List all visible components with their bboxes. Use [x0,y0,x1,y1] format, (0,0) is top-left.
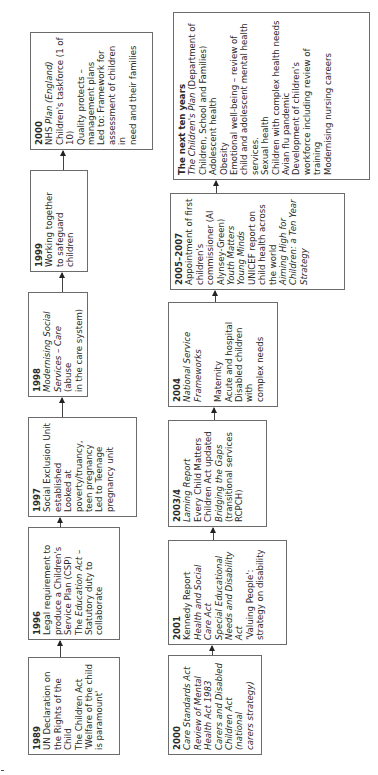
timeline-entry-line: Appointment of first [184,198,194,285]
timeline-year-heading: The next ten years [177,17,187,175]
timeline-entry-line: Acute and hospital [224,307,234,402]
arrow-connector [216,181,217,193]
arrow-connector [212,646,213,655]
timeline-entry-line: Youth Matters [226,198,236,285]
timeline-entry-line: produce a Children's [53,532,63,635]
timeline-entry-line: the world [268,198,278,285]
timeline-entry-line: Kennedy Report [182,545,192,640]
timeline-entry-line: is paramount' [94,662,104,750]
timeline-entry-line: Health and Social [193,545,203,640]
timeline-entry-line: workforce including review of [302,17,312,175]
timeline-entry-line: Avian flu pandemic [281,17,291,175]
timeline-entry-line: need and their families [128,37,138,145]
timeline-entry-line: The Children Act [74,662,84,750]
timeline-entry-line: Bridging the Gaps [214,425,224,522]
timeline-entry-line: pregnancy unit [105,422,115,512]
timeline-entry-line: Laming Report [182,425,192,522]
timeline-entry-line: Strategy [299,198,309,285]
arrow-connector [214,408,215,420]
timeline-entry-line: child and adolescent mental health [239,17,249,175]
timeline-entry-line: Care Standards Act [182,660,192,750]
timeline-entry-line: Sexual health [260,17,270,175]
timeline-entry-line: child health across [257,198,267,285]
timeline-entry-line: 10) [65,37,75,145]
timeline-entry-line: Service Plan (CSP) [63,532,73,635]
timeline-entry-line: children [65,175,75,267]
arrow-connector [215,291,216,302]
timeline-year-heading: 2000 [172,660,182,750]
timeline-entry-line: Modernising Social [42,297,52,392]
arrow-connector [63,151,64,170]
timeline-entry-line: in the care system) [74,297,84,392]
timeline-entry-line: Carers and Disabled [214,660,224,750]
timeline-entry-line: Social Exclusion Unit [42,422,52,512]
timeline-year-heading: 1996 [32,532,42,635]
timeline-entry-line: Children Act updated [203,425,213,522]
timeline-entry-line: Care Act [203,545,213,640]
timeline-entry-line: Children Act (national [224,660,245,750]
timeline-entry-line: Children's taskforce (1 of [55,37,65,145]
timeline-entry-line: Development of children's [291,17,301,175]
corner-mark [1,770,4,771]
timeline-year-heading: 2005–2007 [174,198,184,285]
timeline-entry-line: children's [195,198,205,285]
timeline-entry-line: carers strategy) [245,660,255,750]
timeline-entry-line: Led to: Framework for [96,37,106,145]
timeline-year-heading: 1999 [34,175,44,267]
timeline-entry-line: training [312,17,322,175]
timeline-year-heading: 1998 [32,297,42,392]
timeline-entry-line: Review of Mental [193,660,203,750]
timeline-year-heading: 2003/4 [172,425,182,522]
timeline-entry-line: Young Minds [236,198,246,285]
timeline-entry-line: Every Child Matters [193,425,203,522]
timeline-entry-line: poverty/truancy, [74,422,84,512]
timeline-entry-line: established [53,422,63,512]
timeline-entry-line: Maternity [213,307,223,402]
timeline-box-2005-2007: 2005–2007Appointment of firstchildren'sc… [170,193,345,290]
timeline-year-heading: 2004 [172,307,182,402]
timeline-entry-line: National Service [182,307,192,402]
timeline-entry-line: management plans [86,37,96,145]
timeline-entry-line: strategy on disability [255,545,265,640]
timeline-entry-line: NHS Plan (England) [44,37,54,145]
timeline-box-2000-care-standards: 2000Care Standards ActReview of MentalHe… [168,655,262,755]
timeline-entry-line: UNICEF report on [247,198,257,285]
timeline-entry-line: 'Welfare of the child [84,662,94,750]
timeline-entry-line: assessment of children in [107,37,128,145]
timeline-entry-line: commissioner (Al [205,198,215,285]
timeline-entry-line: Needs and Disability [224,545,234,640]
timeline-box-2004: 2004National ServiceFrameworksMaternityA… [168,302,278,407]
timeline-entry-line: Child [63,662,73,750]
timeline-entry-line: Working together [44,175,54,267]
timeline-box-next-ten-years: The next ten yearsThe Children's Plan (D… [173,12,370,180]
timeline-entry-line [203,307,213,402]
timeline-entry-line: Special Educational [214,545,224,640]
arrow-connector [60,641,61,657]
timeline-entry-line: Adolescent health [208,17,218,175]
timeline-entry-line: Frameworks [193,307,203,402]
timeline-box-2003-4: 2003/4Laming ReportEvery Child MattersCh… [168,420,267,527]
timeline-box-1997: 1997Social Exclusion UnitestablishedLook… [28,417,137,517]
arrow-connector [62,273,63,292]
timeline-entry-line: to safeguard [55,175,65,267]
timeline-year-heading: 2000 [34,37,44,145]
timeline-entry-line: Looked at [63,422,73,512]
timeline-entry-line: UN Declaration on [42,662,52,750]
timeline-year-heading: 1989 [32,662,42,750]
timeline-entry-line: Children with complex health needs [271,17,281,175]
timeline-entry-line: teen pregnancy [84,422,94,512]
timeline-entry-line: complex needs [255,307,265,402]
timeline-diagram: 1989UN Declaration onthe Rights of theCh… [0,0,378,775]
timeline-box-2000-nhs: 2000NHS Plan (England)Children's taskfor… [30,32,153,150]
arrow-connector [60,518,61,527]
timeline-entry-line: collaborate [94,532,104,635]
timeline-entry-line: Services – Care (abuse [53,297,74,392]
timeline-entry-line: Emotional well-being – review of [229,17,239,175]
timeline-entry-line: Act [234,545,244,640]
timeline-entry-line: Health Act 1983 [203,660,213,750]
timeline-entry-line: the Rights of the [53,662,63,750]
timeline-entry-line: The Education Act – [74,532,84,635]
timeline-year-heading: 2001 [172,545,182,640]
timeline-entry-line: Obesity [219,17,229,175]
timeline-entry-line: Aiming High for [278,198,288,285]
